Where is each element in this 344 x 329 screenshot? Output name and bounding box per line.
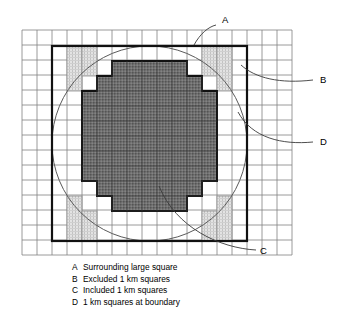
leader-line-d	[238, 112, 313, 143]
legend-item-c: C Included 1 km squares	[72, 285, 302, 297]
legend-item-d: D 1 km squares at boundary	[72, 297, 302, 309]
leader-line-a	[194, 25, 216, 45]
legend-key-b: B	[72, 274, 83, 286]
legend-text-c: Included 1 km squares	[83, 285, 302, 297]
excluded-square	[67, 196, 82, 241]
callout-a: A	[222, 14, 229, 25]
legend-key-d: D	[72, 297, 83, 309]
legend-item-a: A Surrounding large square	[72, 262, 302, 274]
legend: A Surrounding large square B Excluded 1 …	[72, 262, 302, 308]
legend-key-c: C	[72, 285, 83, 297]
callout-c: C	[260, 245, 267, 256]
legend-item-b: B Excluded 1 km squares	[72, 274, 302, 286]
legend-text-a: Surrounding large square	[83, 262, 302, 274]
excluded-square	[217, 196, 232, 241]
callout-d: D	[320, 136, 327, 147]
legend-key-a: A	[72, 262, 83, 274]
legend-text-b: Excluded 1 km squares	[83, 274, 302, 286]
callout-b: B	[320, 74, 326, 85]
legend-text-d: 1 km squares at boundary	[83, 297, 302, 309]
excluded-square	[67, 46, 82, 91]
excluded-square	[217, 46, 232, 91]
